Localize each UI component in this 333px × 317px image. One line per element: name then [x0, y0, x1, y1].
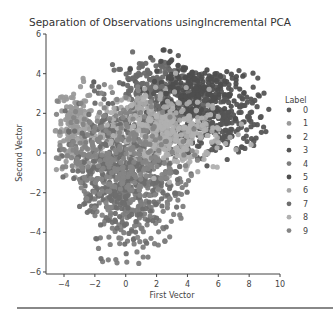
legend-title: Label: [285, 96, 307, 105]
y-tick-label: −4: [29, 228, 41, 237]
chart-title: Separation of Observations usingIncremen…: [29, 16, 292, 28]
x-tick-label: 0: [123, 280, 128, 289]
x-tick-label: −4: [58, 280, 70, 289]
legend-label: 5: [303, 173, 308, 182]
legend-item-9: 9: [287, 227, 308, 236]
bottom-divider: [17, 307, 333, 309]
x-axis-title: First Vector: [150, 291, 196, 300]
y-tick-label: 6: [36, 30, 41, 39]
legend-label: 9: [303, 227, 308, 236]
legend-item-7: 7: [287, 200, 308, 209]
legend-label: 0: [303, 106, 308, 115]
legend-label: 4: [303, 160, 308, 169]
legend: Label 0123456789: [285, 96, 308, 236]
x-tick-label: 8: [247, 280, 252, 289]
legend-marker-icon: [287, 215, 292, 220]
y-axis-title: Second Vector: [15, 124, 24, 182]
legend-marker-icon: [287, 188, 292, 193]
x-tick-label: 4: [185, 280, 190, 289]
legend-label: 8: [303, 213, 308, 222]
legend-marker-icon: [287, 108, 292, 113]
legend-item-1: 1: [287, 119, 308, 128]
x-ticks: −4−20246810: [58, 274, 285, 289]
legend-label: 1: [303, 119, 308, 128]
legend-items: 0123456789: [287, 106, 308, 236]
y-tick-label: −6: [29, 268, 41, 277]
y-tick-label: −2: [29, 189, 41, 198]
legend-label: 2: [303, 133, 308, 142]
legend-marker-icon: [287, 201, 292, 206]
legend-label: 7: [303, 200, 308, 209]
legend-item-5: 5: [287, 173, 308, 182]
legend-label: 3: [303, 146, 308, 155]
legend-marker-icon: [287, 134, 292, 139]
scatter-chart: Separation of Observations usingIncremen…: [0, 0, 333, 317]
x-tick-label: 6: [216, 280, 221, 289]
legend-item-6: 6: [287, 186, 308, 195]
legend-marker-icon: [287, 148, 292, 153]
legend-marker-icon: [287, 175, 292, 180]
y-tick-label: 0: [36, 149, 41, 158]
y-tick-label: 2: [36, 109, 41, 118]
legend-item-8: 8: [287, 213, 308, 222]
legend-item-0: 0: [287, 106, 308, 115]
legend-marker-icon: [287, 228, 292, 233]
y-ticks: −6−4−20246: [29, 30, 46, 277]
legend-item-3: 3: [287, 146, 308, 155]
y-tick-label: 4: [36, 70, 41, 79]
legend-item-4: 4: [287, 160, 308, 169]
x-tick-label: 10: [275, 280, 285, 289]
legend-label: 6: [303, 186, 308, 195]
x-tick-label: 2: [154, 280, 159, 289]
scatter-points: [53, 47, 272, 266]
x-tick-label: −2: [89, 280, 101, 289]
legend-marker-icon: [287, 161, 292, 166]
legend-marker-icon: [287, 121, 292, 126]
legend-item-2: 2: [287, 133, 308, 142]
